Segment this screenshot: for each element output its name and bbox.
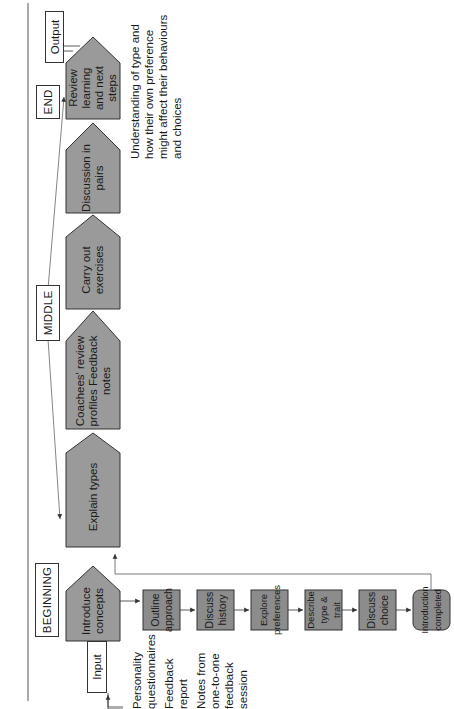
input-box: Input xyxy=(87,641,107,693)
sub-step-discuss-history: Discuss history xyxy=(197,590,234,630)
sub-step-explore-preferences: Explore preferences xyxy=(251,590,288,630)
main-step-introduce-concepts: Introduce concepts xyxy=(66,581,120,641)
diagram-frame: BEGINNING MIDDLE END Input Output Introd… xyxy=(0,0,454,709)
input-item: Notes from one-to-one feedback session xyxy=(194,631,250,709)
sub-step-introduction-completed: Introduction completed xyxy=(413,590,450,630)
main-step-review-learning: Review learning and next steps xyxy=(66,57,120,119)
phase-middle-label: MIDDLE xyxy=(36,285,60,341)
phase-beginning-label: BEGINNING xyxy=(35,563,59,637)
input-item: Feedback report xyxy=(162,631,190,709)
input-item: Personality questionnaires xyxy=(130,631,158,709)
sub-step-describe-type: Describe type & trait xyxy=(305,590,342,630)
main-step-carry-out-exercises: Carry out exercises xyxy=(66,231,120,309)
output-box: Output xyxy=(45,11,64,63)
main-step-discussion-pairs: Discussion in pairs xyxy=(66,143,120,213)
output-description: Understanding of type and how their own … xyxy=(128,9,184,159)
main-step-explain-types: Explain types xyxy=(66,447,120,547)
middle-arrow-right xyxy=(48,97,64,289)
inputs-list: Personality questionnaires Feedback repo… xyxy=(130,631,254,709)
sub-step-outline-approach: Outline approach xyxy=(143,590,180,630)
sub-step-discuss-choice: Discuss choice xyxy=(359,590,396,630)
middle-arrow-left xyxy=(48,339,60,519)
phase-end-label: END xyxy=(36,85,60,119)
main-step-coachees-review: Coachees' review profiles Feedback notes xyxy=(66,333,120,429)
